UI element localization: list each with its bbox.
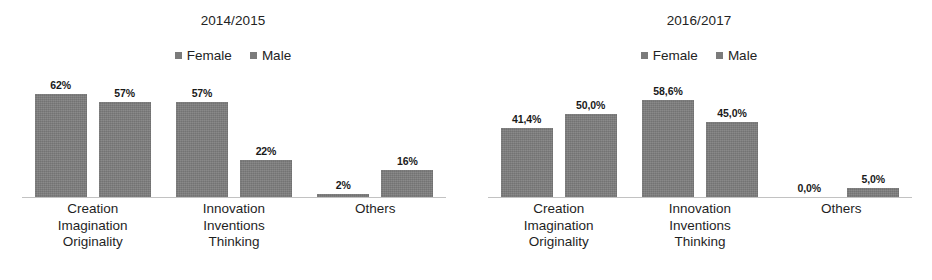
bar-group-innovation: 57% 22% — [169, 76, 299, 197]
category-label-line: Others — [776, 201, 906, 218]
bar-group-innovation: 58,6% 45,0% — [635, 76, 765, 197]
category-label-line: Creation — [494, 201, 624, 218]
chart-legend: Female Male — [0, 48, 466, 63]
x-axis-line — [22, 197, 446, 198]
bar-value-label: 57% — [114, 87, 135, 99]
category-label-creation: Creation Imagination Originality — [494, 201, 624, 251]
bar-female-innovation — [642, 100, 694, 197]
bar-group-creation: 62% 57% — [28, 76, 158, 197]
category-label-others: Others — [310, 201, 440, 218]
bar-value-label: 2% — [336, 179, 351, 191]
bar-slot-female: 2% — [317, 76, 369, 197]
legend-label-male: Male — [262, 48, 291, 63]
bar-male-creation — [565, 114, 617, 197]
category-label-innovation: Innovation Inventions Thinking — [169, 201, 299, 251]
bar-value-label: 62% — [50, 79, 71, 91]
chart-panel-2016-2017: 2016/2017 Female Male 41,4% 50,0% — [466, 0, 932, 280]
bar-slot-female: 0,0% — [783, 76, 835, 197]
category-label-line: Thinking — [635, 234, 765, 251]
category-label-innovation: Innovation Inventions Thinking — [635, 201, 765, 251]
figure-container: 2014/2015 Female Male 62% 57% — [0, 0, 932, 280]
bar-value-label: 50,0% — [576, 99, 605, 111]
category-labels: Creation Imagination Originality Innovat… — [488, 201, 912, 271]
legend-entry-female: Female — [175, 48, 232, 63]
bar-male-creation — [99, 102, 151, 197]
bar-groups: 41,4% 50,0% 58,6% 45,0% — [488, 76, 912, 197]
bar-value-label: 0,0% — [798, 182, 822, 194]
bar-slot-male: 16% — [381, 76, 433, 197]
bar-group-others: 2% 16% — [310, 76, 440, 197]
bar-value-label: 45,0% — [717, 107, 746, 119]
category-label-line: Innovation — [169, 201, 299, 218]
bar-slot-male: 5,0% — [847, 76, 899, 197]
bar-female-creation — [501, 128, 553, 197]
category-labels: Creation Imagination Originality Innovat… — [22, 201, 446, 271]
legend-entry-male: Male — [250, 48, 291, 63]
bar-slot-male: 50,0% — [565, 76, 617, 197]
chart-title: 2016/2017 — [466, 13, 932, 28]
bar-group-others: 0,0% 5,0% — [776, 76, 906, 197]
x-axis-line — [488, 197, 912, 198]
legend-label-male: Male — [728, 48, 757, 63]
bar-slot-female: 41,4% — [501, 76, 553, 197]
category-label-line: Creation — [28, 201, 158, 218]
chart-title: 2014/2015 — [0, 13, 466, 28]
bar-value-label: 58,6% — [653, 85, 682, 97]
bar-value-label: 41,4% — [512, 113, 541, 125]
chart-panel-2014-2015: 2014/2015 Female Male 62% 57% — [0, 0, 466, 280]
bar-male-others — [847, 188, 899, 197]
category-label-line: Others — [310, 201, 440, 218]
legend-swatch-icon — [716, 52, 723, 59]
bar-female-creation — [35, 94, 87, 197]
category-label-line: Thinking — [169, 234, 299, 251]
category-label-line: Imagination — [494, 218, 624, 235]
bar-slot-male: 45,0% — [706, 76, 758, 197]
legend-label-female: Female — [187, 48, 232, 63]
category-label-line: Originality — [28, 234, 158, 251]
bar-female-innovation — [176, 102, 228, 197]
plot-area: 62% 57% 57% 22% — [22, 76, 446, 198]
legend-swatch-icon — [641, 52, 648, 59]
legend-entry-male: Male — [716, 48, 757, 63]
category-label-line: Imagination — [28, 218, 158, 235]
bar-slot-female: 57% — [176, 76, 228, 197]
bar-male-innovation — [240, 160, 292, 197]
category-label-line: Inventions — [169, 218, 299, 235]
bar-male-others — [381, 170, 433, 197]
legend-swatch-icon — [175, 52, 182, 59]
legend-swatch-icon — [250, 52, 257, 59]
bar-group-creation: 41,4% 50,0% — [494, 76, 624, 197]
bar-value-label: 22% — [256, 145, 277, 157]
bar-slot-female: 58,6% — [642, 76, 694, 197]
legend-label-female: Female — [653, 48, 698, 63]
bar-slot-female: 62% — [35, 76, 87, 197]
chart-legend: Female Male — [466, 48, 932, 63]
category-label-line: Innovation — [635, 201, 765, 218]
bar-slot-male: 22% — [240, 76, 292, 197]
legend-entry-female: Female — [641, 48, 698, 63]
bar-value-label: 5,0% — [862, 173, 886, 185]
category-label-line: Originality — [494, 234, 624, 251]
plot-area: 41,4% 50,0% 58,6% 45,0% — [488, 76, 912, 198]
category-label-line: Inventions — [635, 218, 765, 235]
bar-groups: 62% 57% 57% 22% — [22, 76, 446, 197]
bar-male-innovation — [706, 122, 758, 197]
category-label-creation: Creation Imagination Originality — [28, 201, 158, 251]
bar-value-label: 16% — [397, 155, 418, 167]
bar-slot-male: 57% — [99, 76, 151, 197]
category-label-others: Others — [776, 201, 906, 218]
bar-value-label: 57% — [192, 87, 213, 99]
